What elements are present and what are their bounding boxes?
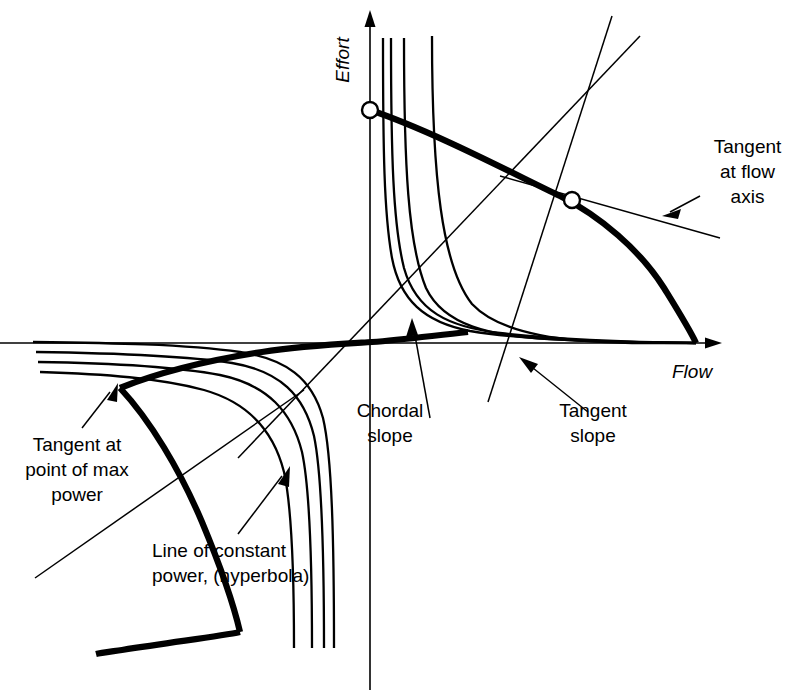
effort-axis-arrowhead (365, 10, 376, 27)
tangent-slope-line (488, 16, 612, 402)
callout-chordal-slope: Chordal slope (330, 398, 450, 448)
flow-axis-arrowhead (705, 338, 722, 349)
flow-axis-label: Flow (672, 361, 713, 382)
leader-tangent-at-max-power (82, 392, 110, 428)
hyperbola-curve-1 (383, 38, 696, 343)
figure-root: Effort Flow Tangent at flow axis Chordal… (0, 0, 795, 700)
axes-group (0, 10, 722, 690)
leader-tangent-at-flow-axis (670, 196, 700, 212)
callout-tangent-at-point-of-max-power: Tangent at point of max power (2, 432, 152, 507)
leader-line-of-constant-power (238, 476, 282, 534)
source-characteristic-lower (120, 388, 240, 632)
arrowhead-tangent-at-max-power (107, 383, 118, 402)
effort-axis-label: Effort (332, 37, 353, 83)
hyperbola-curve-4 (432, 36, 696, 343)
effort-axis-intercept-marker (362, 102, 378, 118)
source-characteristic-tail (96, 632, 240, 654)
operating-point-marker (564, 192, 580, 208)
arrowhead-chordal-slope (406, 318, 418, 337)
callout-tangent-slope: Tangent slope (533, 398, 653, 448)
callout-tangent-at-flow-axis: Tangent at flow axis (700, 134, 795, 209)
callout-line-of-constant-power: Line of constant power, (hyperbola) (152, 538, 412, 588)
effort-flow-diagram: Effort Flow (0, 0, 795, 700)
